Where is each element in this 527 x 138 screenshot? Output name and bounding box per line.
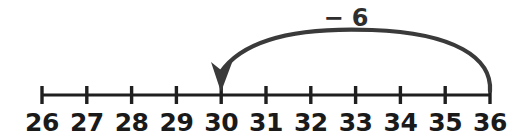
- tick-label-34: 34: [384, 108, 418, 137]
- jump-arc: [221, 30, 490, 91]
- tick-label-26: 26: [25, 108, 59, 137]
- arrow-head-icon: [211, 60, 233, 92]
- number-line-canvas: 26 27 28 29 30 31 32 33 34 35 36 − 6: [0, 0, 527, 138]
- tick-label-30: 30: [204, 108, 238, 137]
- number-line-figure: 26 27 28 29 30 31 32 33 34 35 36 − 6: [0, 0, 527, 138]
- tick-label-31: 31: [249, 108, 283, 137]
- tick-label-29: 29: [160, 108, 194, 137]
- tick-label-group: 26 27 28 29 30 31 32 33 34 35 36: [25, 108, 507, 137]
- jump-amount-label: − 6: [323, 4, 368, 32]
- tick-label-28: 28: [115, 108, 149, 137]
- tick-label-33: 33: [339, 108, 373, 137]
- tick-label-35: 35: [428, 108, 462, 137]
- tick-label-32: 32: [294, 108, 328, 137]
- tick-label-36: 36: [473, 108, 507, 137]
- tick-label-27: 27: [70, 108, 104, 137]
